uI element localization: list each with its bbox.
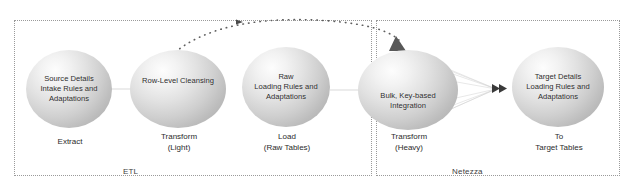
node-bulk-key-based-integration[interactable]: Bulk, Key-based Integration <box>358 50 458 130</box>
node-raw-loading-rules[interactable]: Raw Loading Rules and Adaptations <box>242 47 330 127</box>
caption-to-target-tables: To Target Tables <box>514 131 604 153</box>
node-raw-loading-rules-label: Raw Loading Rules and Adaptations <box>250 72 321 102</box>
caption-transform-light: Transform (Light) <box>134 131 224 153</box>
caption-extract: Extract <box>28 136 112 147</box>
node-row-level-cleansing-label: Row-Level Cleansing <box>138 76 218 86</box>
node-target-details-label: Target Details Loading Rules and Adaptat… <box>522 72 593 102</box>
etl-netezza-flow-diagram: Source Details Intake Rules and Adaptati… <box>0 0 632 195</box>
group-label-netezza: Netezza <box>452 167 483 176</box>
node-source-details[interactable]: Source Details Intake Rules and Adaptati… <box>26 50 112 128</box>
node-bulk-key-based-integration-label: Bulk, Key-based Integration <box>376 91 439 111</box>
node-row-level-cleansing[interactable]: Row-Level Cleansing <box>130 50 226 128</box>
caption-load-raw-tables: Load (Raw Tables) <box>244 131 330 153</box>
node-source-details-label: Source Details Intake Rules and Adaptati… <box>37 74 102 104</box>
node-target-details[interactable]: Target Details Loading Rules and Adaptat… <box>512 47 604 127</box>
caption-transform-heavy: Transform (Heavy) <box>360 131 458 153</box>
group-label-etl: ETL <box>123 167 138 176</box>
